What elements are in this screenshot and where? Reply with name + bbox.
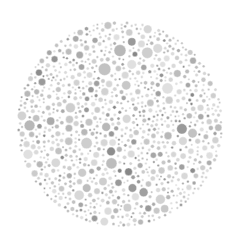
plate-dot bbox=[186, 102, 188, 104]
plate-dot bbox=[77, 107, 79, 109]
plate-dot bbox=[67, 191, 72, 196]
plate-dot bbox=[166, 42, 168, 44]
plate-dot bbox=[202, 180, 205, 183]
plate-dot bbox=[98, 212, 100, 214]
plate-dot bbox=[99, 205, 101, 207]
plate-dot bbox=[196, 168, 199, 171]
plate-dot bbox=[65, 154, 68, 157]
plate-dot bbox=[100, 217, 108, 225]
plate-dot bbox=[147, 133, 150, 136]
plate-dot bbox=[74, 92, 77, 95]
plate-dot bbox=[182, 66, 184, 68]
plate-dot bbox=[44, 173, 49, 178]
plate-dot bbox=[73, 79, 79, 85]
plate-dot bbox=[97, 42, 101, 46]
plate-dot bbox=[36, 140, 40, 144]
plate-dot bbox=[46, 63, 51, 68]
plate-dot bbox=[155, 123, 159, 127]
plate-dot bbox=[93, 24, 95, 26]
plate-dot bbox=[145, 168, 147, 170]
plate-dot bbox=[130, 97, 135, 102]
plate-dot bbox=[104, 207, 112, 215]
plate-dot bbox=[96, 27, 99, 30]
plate-dot bbox=[113, 106, 117, 110]
plate-dot bbox=[97, 77, 100, 80]
plate-dot bbox=[123, 41, 125, 43]
plate-dot bbox=[142, 124, 144, 126]
plate-dot bbox=[185, 48, 188, 51]
plate-dot bbox=[153, 128, 157, 132]
plate-dot bbox=[156, 114, 159, 117]
plate-dot bbox=[62, 132, 65, 135]
plate-dot bbox=[62, 52, 65, 55]
plate-dot bbox=[112, 222, 115, 225]
plate-dot bbox=[93, 210, 97, 214]
plate-dot bbox=[201, 77, 206, 82]
plate-dot bbox=[55, 79, 57, 81]
plate-dot bbox=[192, 181, 196, 185]
plate-dot bbox=[144, 105, 147, 108]
plate-dot bbox=[116, 121, 120, 125]
plate-dot bbox=[114, 126, 119, 131]
plate-dot bbox=[156, 174, 160, 178]
plate-dot bbox=[28, 76, 33, 81]
plate-dot bbox=[141, 105, 144, 108]
plate-dot bbox=[37, 146, 41, 150]
plate-dot bbox=[150, 124, 154, 128]
plate-dot bbox=[24, 137, 27, 140]
plate-dot bbox=[150, 152, 156, 158]
plate-dot bbox=[143, 81, 147, 85]
plate-dot bbox=[44, 166, 47, 169]
plate-dot bbox=[194, 84, 197, 87]
plate-dot bbox=[174, 115, 176, 117]
plate-dot bbox=[164, 80, 166, 82]
plate-dot bbox=[156, 195, 166, 205]
plate-dot bbox=[139, 127, 141, 129]
plate-dot bbox=[133, 106, 138, 111]
plate-dot bbox=[121, 177, 124, 180]
plate-dot bbox=[159, 109, 162, 112]
plate-dot bbox=[128, 184, 137, 193]
plate-dot bbox=[188, 138, 191, 141]
plate-dot bbox=[58, 196, 63, 201]
plate-dot bbox=[34, 150, 39, 155]
plate-dot bbox=[108, 99, 113, 104]
plate-dot bbox=[141, 170, 145, 174]
plate-dot bbox=[130, 216, 132, 218]
plate-dot bbox=[211, 107, 213, 109]
plate-dot bbox=[102, 40, 105, 43]
plate-dot bbox=[140, 152, 143, 155]
plate-dot bbox=[208, 126, 213, 131]
plate-dot bbox=[186, 166, 188, 168]
plate-dot bbox=[71, 159, 74, 162]
plate-dot bbox=[58, 71, 61, 74]
plate-dot bbox=[58, 192, 60, 194]
plate-dot bbox=[164, 120, 166, 122]
plate-dot bbox=[94, 80, 100, 86]
plate-dot bbox=[60, 79, 63, 82]
plate-dot bbox=[101, 23, 103, 25]
plate-dot bbox=[46, 74, 49, 77]
plate-dot bbox=[140, 185, 142, 187]
plate-dot bbox=[85, 214, 87, 216]
plate-dot bbox=[100, 58, 104, 62]
plate-dot bbox=[52, 65, 55, 68]
plate-dot bbox=[51, 141, 55, 145]
plate-dot bbox=[157, 57, 161, 61]
plate-dot bbox=[146, 43, 148, 45]
plate-dot bbox=[156, 100, 159, 103]
plate-dot bbox=[163, 145, 167, 149]
plate-dot bbox=[84, 40, 87, 43]
plate-dot bbox=[78, 139, 80, 141]
plate-dot bbox=[135, 172, 137, 174]
plate-dot bbox=[34, 82, 36, 84]
plate-dot bbox=[174, 70, 182, 78]
plate-dot bbox=[100, 49, 103, 52]
plate-dot bbox=[120, 23, 123, 26]
plate-dot bbox=[43, 134, 46, 137]
plate-dot bbox=[202, 84, 205, 87]
plate-dot bbox=[175, 120, 178, 123]
plate-dot bbox=[171, 110, 174, 113]
plate-dot bbox=[85, 118, 93, 126]
plate-dot bbox=[181, 96, 185, 100]
